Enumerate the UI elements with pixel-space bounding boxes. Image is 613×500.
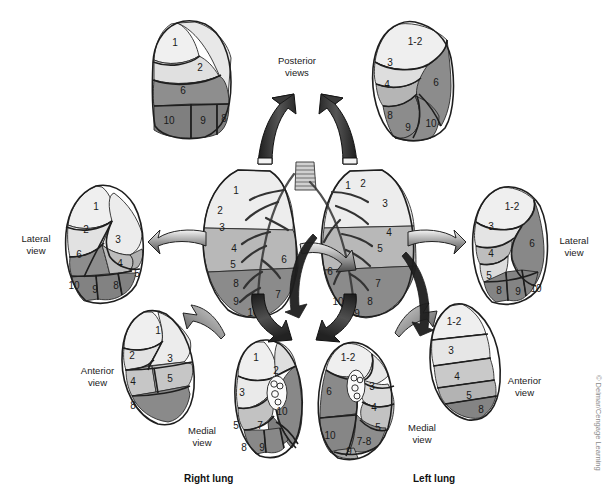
right-posterior-segments (152, 21, 231, 139)
left-lateral-segments (473, 187, 548, 304)
left-lung-title: Left lung (413, 473, 455, 484)
lung-segment-diagram: 1 2 3 4 5 6 8 9 10 7 (0, 0, 613, 500)
arrow-center-left-sweep-icon (285, 232, 319, 320)
hilum-structures (267, 376, 287, 410)
left-medial-segments (318, 342, 394, 459)
right-lateral-view-label: Lateral view (10, 233, 62, 256)
left-medial-view-label: Medial view (398, 422, 446, 445)
posterior-views-label: Posterior views (267, 55, 327, 78)
arrow-left-lung-to-medial-sweep-icon (400, 250, 434, 338)
left-posterior-segments (373, 22, 454, 141)
arrow-to-right-anterior-icon (183, 305, 227, 339)
left-anterior-view-label: Anterior view (497, 375, 552, 398)
right-lung-posterior-view[interactable]: 1 2 6 10 9 8 (143, 18, 248, 143)
left-lateral-view-label: Lateral view (548, 235, 600, 258)
arrow-to-right-lateral-icon (148, 226, 208, 260)
left-lung-posterior-view[interactable]: 1-2 3 4 6 8 9 10 (363, 20, 468, 145)
left-anterior-segments (430, 304, 500, 420)
hilum-structures (347, 370, 365, 402)
right-anterior-view-label: Anterior view (70, 365, 125, 388)
right-medial-view-label: Medial view (178, 425, 226, 448)
arrow-to-right-posterior-icon (238, 86, 300, 166)
segment-label: 8 (241, 442, 247, 453)
right-lung-title: Right lung (184, 473, 233, 484)
right-medial-segments (235, 340, 302, 458)
arrow-to-left-posterior-icon (315, 86, 377, 166)
right-lateral-segments (66, 185, 144, 303)
copyright-notice: © Delmar/Cengage Learning (594, 375, 603, 471)
